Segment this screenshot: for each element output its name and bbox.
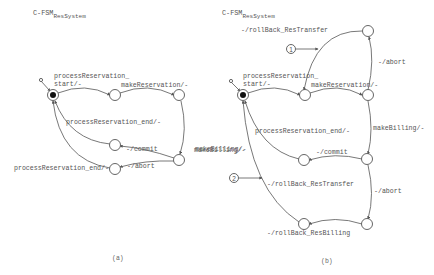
label-make-reservation: makeReservation/- bbox=[121, 82, 188, 89]
edge-make-reservation bbox=[120, 88, 174, 95]
edge-rollback-transfer-mid bbox=[243, 101, 299, 222]
edge-rollback-billing bbox=[309, 220, 362, 225]
state-billed-b bbox=[362, 154, 373, 165]
panel-a-title: C-FSMResSystem bbox=[33, 9, 86, 20]
state-reservation bbox=[110, 90, 121, 101]
label-make-billing-right: makeBilling/- bbox=[373, 125, 424, 132]
panel-a: C-FSMResSystem processReservation_ start… bbox=[14, 9, 245, 262]
panel-b: C-FSMResSystem 1 2 -/rollBack_ResT bbox=[195, 9, 424, 265]
state-rollback-right bbox=[362, 219, 373, 230]
edge-init-b bbox=[231, 82, 240, 91]
label-make-billing-left: makeBilling/- bbox=[195, 146, 246, 153]
label-commit-b: -/commit bbox=[316, 149, 348, 156]
caption-a: (a) bbox=[112, 255, 124, 262]
edge-abort-mid bbox=[368, 165, 372, 219]
edge-make-billing-b bbox=[368, 101, 371, 154]
label-rollback-transfer-mid: -/rollBack_ResTransfer bbox=[267, 181, 354, 188]
label-make-reservation-b: makeReservation/- bbox=[311, 82, 378, 89]
edge-init bbox=[41, 81, 50, 91]
label-start2-b: start/- bbox=[243, 81, 271, 88]
edge-start bbox=[58, 88, 110, 95]
label-rollback-billing: -/rollBack_ResBilling bbox=[267, 230, 350, 237]
origin-dot bbox=[39, 78, 42, 81]
state-committed bbox=[110, 140, 121, 151]
marker-1-label: 1 bbox=[289, 46, 293, 53]
panel-b-title: C-FSMResSystem bbox=[222, 9, 275, 20]
state-rollback-left bbox=[299, 219, 310, 230]
label-start: processReservation_ bbox=[54, 73, 129, 80]
label-end-top: processReservation_end/- bbox=[66, 119, 161, 126]
initial-state-fill bbox=[50, 92, 56, 98]
label-abort: -/abort bbox=[127, 163, 155, 170]
state-reserved bbox=[174, 90, 185, 101]
initial-state-fill-b bbox=[240, 92, 246, 98]
label-end-bottom: processReservation_end/- bbox=[14, 165, 109, 172]
label-start2: start/- bbox=[54, 81, 82, 88]
label-abort-top: -/abort bbox=[378, 59, 406, 66]
label-end-b: processReservation_end/- bbox=[255, 128, 350, 135]
origin-dot-b bbox=[229, 79, 232, 82]
label-commit: -/commit bbox=[126, 146, 158, 153]
edge-make-billing bbox=[180, 101, 184, 154]
state-reservation-b bbox=[300, 90, 311, 101]
state-reserved-b bbox=[363, 90, 374, 101]
state-billed bbox=[174, 155, 185, 166]
edge-commit-b bbox=[309, 156, 362, 160]
state-aborted bbox=[110, 164, 121, 175]
marker-2-label: 2 bbox=[232, 175, 236, 182]
fsm-diagram: C-FSMResSystem processReservation_ start… bbox=[0, 0, 434, 275]
caption-b: (b) bbox=[321, 258, 333, 265]
label-abort-mid: -/abort bbox=[374, 188, 402, 195]
label-rollback-transfer-top: -/rollBack_ResTransfer bbox=[241, 27, 328, 34]
state-abort-top bbox=[363, 26, 374, 37]
edge-make-reservation-b bbox=[310, 88, 362, 95]
label-start-b: processReservation_ bbox=[243, 73, 318, 80]
edge-start-b bbox=[248, 88, 300, 95]
state-committed-b bbox=[299, 155, 310, 166]
